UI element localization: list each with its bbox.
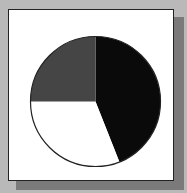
- pie-slices: [31, 37, 161, 167]
- pie-slice-3: [31, 37, 96, 102]
- pie-chart: [0, 0, 187, 193]
